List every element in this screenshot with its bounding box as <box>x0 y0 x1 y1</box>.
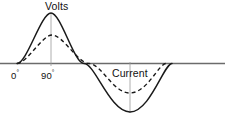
sine-wave-diagram <box>0 0 225 118</box>
axis-label-90-degrees: 90° <box>41 70 54 81</box>
current-label: Current <box>112 68 148 79</box>
degree-symbol-icon: ° <box>52 69 55 76</box>
volts-label: Volts <box>45 1 68 12</box>
degree-symbol-icon: ° <box>16 69 19 76</box>
axis-label-0-degrees: 0° <box>11 70 19 81</box>
axis-label-90-value: 90 <box>41 70 52 81</box>
